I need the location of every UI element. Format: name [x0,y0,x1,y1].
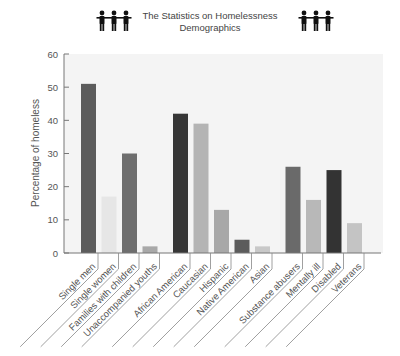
category-leader-line [245,253,323,347]
y-tick-label: 20 [47,181,58,192]
category-leader-line [112,253,190,347]
category-leader-line [194,253,272,347]
people-group-icon [298,10,334,32]
plot-background [64,54,383,253]
category-label: Asian [247,261,272,286]
chart-title-line-1: The Statistics on Homelessness [130,10,290,22]
y-axis-label: Percentage of homeless [30,99,41,207]
category-leader-line [41,253,119,347]
category-label: Hispanic [197,260,231,294]
bar [194,124,209,253]
bar [347,223,362,253]
category-label: Veterans [329,260,363,294]
chart-title-line-2: Demographics [130,22,290,34]
category-leader-line [225,253,303,347]
y-tick-label: 40 [47,115,58,126]
bar [173,114,188,253]
bar [102,197,117,253]
category-label: Disabled [309,261,343,295]
bar [235,240,250,253]
category-label: Substance abusers [237,260,302,325]
y-tick-label: 10 [47,214,58,225]
bar [214,210,229,253]
bar [255,246,270,253]
bar-chart-plot: 0102030405060Percentage of homelessSingl… [0,0,400,356]
category-label: Unaccompanied youths [81,260,159,338]
bar [286,167,301,253]
category-leader-line [20,253,98,347]
category-leader-line [153,253,231,347]
y-tick-label: 60 [47,49,58,60]
category-label: Single men [56,261,97,302]
category-leader-line [82,253,160,347]
chart-title: The Statistics on Homelessness Demograph… [130,10,290,34]
chart: The Statistics on Homelessness Demograph… [0,0,400,356]
category-leader-line [174,253,252,347]
category-label: Families with children [66,261,138,333]
bar [143,246,158,253]
bar [81,84,96,253]
bar [306,200,321,253]
category-label: Mentally ill [283,261,322,300]
category-label: Caucasian [170,261,210,301]
bar [122,154,137,254]
y-tick-label: 50 [47,82,58,93]
category-leader-line [61,253,139,347]
category-label: African American [131,261,190,320]
people-group-icon [96,10,132,32]
y-tick-label: 0 [53,248,58,259]
category-leader-line [286,253,364,347]
category-leader-line [133,253,211,347]
category-label: Single women [68,261,118,311]
category-leader-line [266,253,344,347]
category-label: Native American [194,261,251,318]
y-tick-label: 30 [47,148,58,159]
bar [327,170,342,253]
